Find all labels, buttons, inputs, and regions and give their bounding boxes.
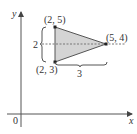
vertex-label-5-4: (5, 4) bbox=[106, 32, 128, 44]
x-axis-label: x bbox=[128, 115, 134, 126]
diagram-canvas: y x 0 (2, 5) (2, 3) (5, 4) 2 3 bbox=[0, 0, 137, 134]
vertex-label-2-3: (2, 3) bbox=[36, 64, 58, 76]
width-brace bbox=[55, 62, 107, 67]
vertex-2-5 bbox=[54, 26, 57, 29]
height-brace-label: 2 bbox=[33, 39, 38, 50]
origin-label: 0 bbox=[13, 115, 18, 126]
width-brace-label: 3 bbox=[77, 68, 82, 79]
y-axis-label: y bbox=[11, 8, 17, 19]
vertex-label-2-5: (2, 5) bbox=[44, 14, 66, 26]
